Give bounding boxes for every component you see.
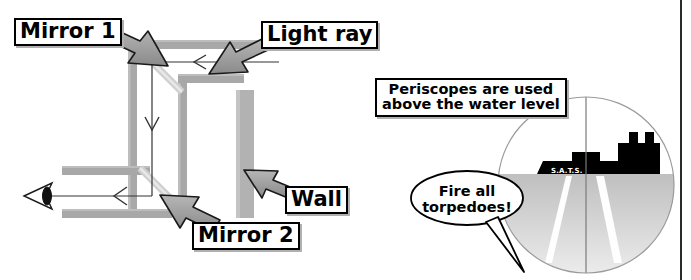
caption-periscope-inner: Periscopes are used above the water leve… (377, 80, 565, 115)
caption-line-2: above the water level (382, 97, 560, 112)
label-light-ray-text: Light ray (263, 23, 376, 47)
wall-inner-horizontal-top (178, 74, 244, 83)
figure-root: Mirror 1 Light ray Mirror 2 Wall Perisco… (0, 0, 691, 280)
label-wall-text: Wall (287, 188, 346, 212)
ship-funnel-icon (629, 132, 638, 144)
label-mirror-1: Mirror 1 (14, 18, 122, 46)
caption-periscope-water-level: Periscopes are used above the water leve… (375, 78, 567, 117)
label-mirror-2-text: Mirror 2 (194, 224, 298, 248)
wall-block-right (236, 90, 254, 218)
eye-icon (24, 183, 52, 209)
periscope-view (411, 97, 674, 274)
label-mirror-2: Mirror 2 (192, 222, 300, 250)
label-wall: Wall (285, 186, 348, 214)
periscope-ray-diagram (24, 28, 295, 231)
label-mirror-1-text: Mirror 1 (16, 20, 120, 44)
wall-bottom-horizontal (62, 209, 172, 218)
label-light-ray: Light ray (261, 21, 378, 49)
caption-line-1: Periscopes are used (382, 82, 560, 97)
wall-left-vertical (128, 40, 137, 218)
wall-inner-horizontal-upper (62, 166, 150, 175)
ship-funnel-icon (645, 132, 654, 144)
